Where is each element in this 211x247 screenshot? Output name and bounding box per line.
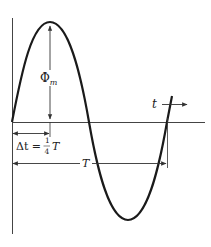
- svg-text:1: 1: [45, 136, 50, 145]
- delta-t-label: Δt = 1 4 T: [16, 136, 61, 156]
- svg-text:Δt =: Δt =: [16, 140, 41, 153]
- svg-text:4: 4: [45, 147, 50, 156]
- sine-curve: [12, 22, 172, 220]
- sine-wave-diagram: Φm t Δt = 1 4 T T: [0, 0, 211, 247]
- period-label: T: [82, 157, 91, 170]
- time-axis-label: t: [152, 97, 157, 111]
- svg-text:T: T: [52, 140, 61, 153]
